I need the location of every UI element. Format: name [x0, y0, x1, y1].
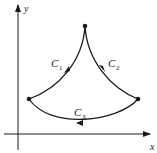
point-top [83, 24, 88, 29]
diagram-canvas: x y C 1 C 2 C 3 [0, 0, 157, 153]
c1-direction-arrow-icon [64, 66, 70, 73]
svg-text:1: 1 [59, 64, 63, 72]
svg-text:2: 2 [116, 64, 120, 72]
svg-text:C: C [108, 57, 116, 69]
label-c1: C 1 [51, 57, 63, 72]
point-right [136, 97, 141, 102]
y-axis-label: y [23, 3, 29, 14]
svg-text:3: 3 [82, 113, 86, 121]
point-left [27, 97, 32, 102]
label-c2: C 2 [108, 57, 120, 72]
svg-text:C: C [74, 106, 82, 118]
x-axis-label: x [149, 141, 155, 152]
svg-text:C: C [51, 57, 59, 69]
